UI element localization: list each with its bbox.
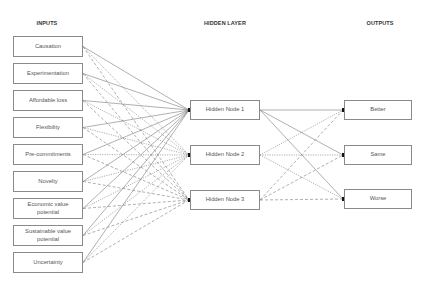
input-node: Novelty xyxy=(13,171,83,192)
input-node: Pre-commitments xyxy=(13,144,83,165)
input-node: Sustainable value potential xyxy=(13,225,83,246)
hidden-output-link xyxy=(260,155,343,200)
input-hidden-link xyxy=(83,47,189,111)
input-hidden-link xyxy=(83,155,189,156)
input-hidden-link xyxy=(83,128,189,201)
input-hidden-link xyxy=(83,110,189,182)
input-hidden-link xyxy=(83,74,189,156)
input-node: Flexibility xyxy=(13,117,83,138)
input-hidden-link xyxy=(83,74,189,111)
input-node: Causation xyxy=(13,36,83,57)
input-hidden-link xyxy=(83,200,189,236)
input-node: Affordable loss xyxy=(13,90,83,111)
output-node: Same xyxy=(344,145,412,165)
input-hidden-link xyxy=(83,110,189,236)
input-hidden-link xyxy=(83,155,189,209)
input-hidden-link xyxy=(83,200,189,209)
input-hidden-link xyxy=(83,128,189,156)
input-hidden-link xyxy=(83,110,189,155)
input-hidden-link xyxy=(83,101,189,201)
input-hidden-link xyxy=(83,155,189,236)
hidden-node: Hidden Node 1 xyxy=(190,100,260,120)
input-node: Experimentation xyxy=(13,63,83,84)
input-hidden-link xyxy=(83,182,189,201)
input-node: Uncertainty xyxy=(13,252,83,273)
input-node: Economic value potential xyxy=(13,198,83,219)
hidden-output-link xyxy=(260,199,343,200)
input-hidden-link xyxy=(83,74,189,201)
hidden-node: Hidden Node 2 xyxy=(190,145,260,165)
output-node: Better xyxy=(344,100,412,120)
input-hidden-link xyxy=(83,200,189,263)
hidden-node: Hidden Node 3 xyxy=(190,190,260,210)
input-hidden-link xyxy=(83,155,189,201)
output-node: Worse xyxy=(344,189,412,209)
hidden-output-link xyxy=(260,110,343,199)
input-hidden-link xyxy=(83,110,189,263)
